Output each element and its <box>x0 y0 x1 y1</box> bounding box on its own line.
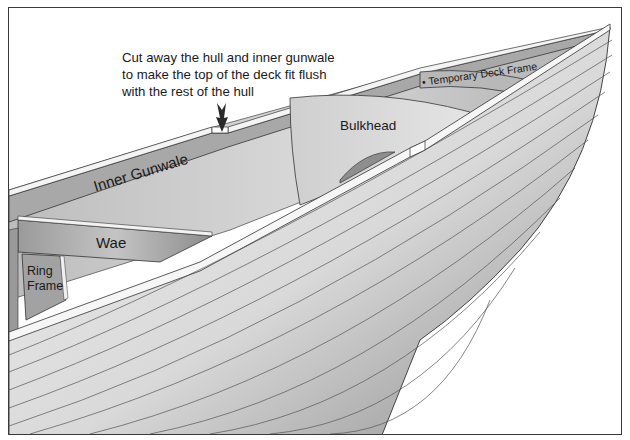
bullet-icon: • <box>421 76 426 88</box>
cut-away-callout: Cut away the hull and inner gunwale to m… <box>122 49 382 100</box>
wae-label: Wae <box>96 234 126 251</box>
bulkhead-label: Bulkhead <box>340 118 396 133</box>
left-frame-post <box>9 228 18 335</box>
callout-line-2: to make the top of the deck fit flush <box>122 66 382 83</box>
gunwale-cut-notch <box>212 127 228 133</box>
callout-line-3: with the rest of the hull <box>122 83 382 100</box>
callout-line-1: Cut away the hull and inner gunwale <box>122 49 382 66</box>
ring-frame-label-line1: Ring <box>27 264 63 279</box>
ring-frame-label: Ring Frame <box>27 264 63 294</box>
ring-frame-label-line2: Frame <box>27 279 63 294</box>
